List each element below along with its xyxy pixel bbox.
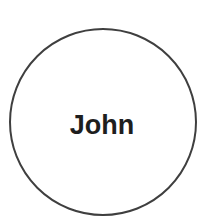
- person-node-label: John: [70, 110, 135, 140]
- diagram-canvas: John: [0, 0, 206, 224]
- diagram-svg: John: [0, 0, 206, 224]
